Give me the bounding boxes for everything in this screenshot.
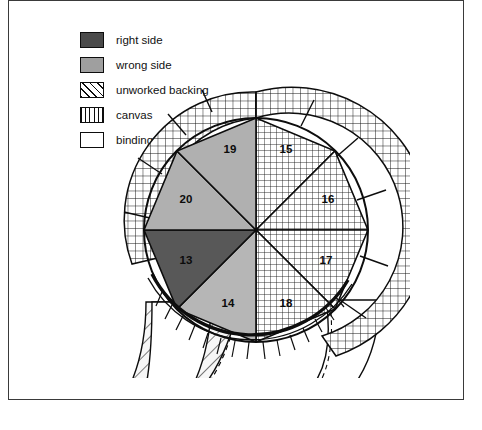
sector-label-15: 15 bbox=[280, 143, 293, 155]
sector-label-14: 14 bbox=[222, 297, 235, 309]
sector-wheel-diagram: 15 16 17 18 14 13 20 19 bbox=[90, 78, 410, 378]
legend-label-right-side: right side bbox=[116, 31, 163, 49]
legend-swatch-wrong-side-icon bbox=[80, 57, 104, 73]
figure-canvas: right side wrong side unworked backing c… bbox=[0, 0, 482, 430]
legend-label-wrong-side: wrong side bbox=[116, 56, 172, 74]
legend-item-right-side: right side bbox=[80, 31, 280, 56]
sector-label-17: 17 bbox=[320, 254, 333, 266]
sector-label-18: 18 bbox=[280, 297, 293, 309]
sector-label-19: 19 bbox=[224, 143, 237, 155]
sector-label-13: 13 bbox=[180, 254, 193, 266]
sector-label-20: 20 bbox=[180, 193, 193, 205]
legend-swatch-right-side-icon bbox=[80, 32, 104, 48]
sector-label-16: 16 bbox=[322, 193, 335, 205]
